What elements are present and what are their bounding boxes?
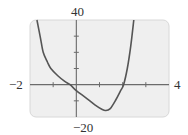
x-min-label: −2: [9, 78, 23, 91]
x-max-label: 4: [174, 78, 181, 91]
graph-window: 40 −20 −2 4: [0, 0, 188, 135]
plot-area: [0, 0, 188, 135]
y-max-label: 40: [71, 5, 84, 18]
y-min-label: −20: [73, 121, 93, 134]
